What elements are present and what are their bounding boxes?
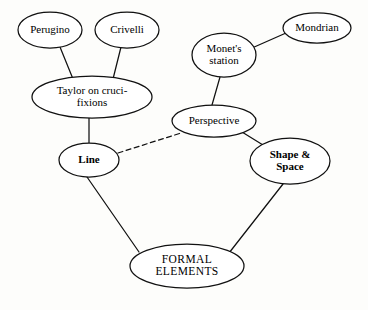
node-taylor-on-crucifixions[interactable]: Taylor on cruci-fixions: [32, 76, 152, 118]
node-label-line: Space: [276, 160, 304, 172]
node-label-line: Line: [78, 153, 100, 165]
node-label-line: Mondrian: [295, 21, 339, 33]
edge-monet-perspective: [212, 77, 220, 105]
node-label-line: Crivelli: [110, 23, 144, 35]
node-label-formal-elements: FORMALELEMENTS: [155, 253, 218, 277]
edge-monet-mondrian: [252, 33, 286, 48]
node-label-perspective: Perspective: [189, 114, 240, 126]
node-perugino[interactable]: Perugino: [18, 12, 82, 48]
edge-crivelli-taylor: [113, 47, 121, 79]
node-label-line: Shape &: [270, 148, 311, 160]
node-shape-and-space[interactable]: Shape &Space: [250, 138, 330, 184]
node-label-line: station: [209, 54, 239, 66]
node-label-perugino: Perugino: [30, 23, 70, 35]
node-monets-station[interactable]: Monet'sstation: [192, 33, 256, 77]
node-line[interactable]: Line: [59, 143, 119, 177]
node-formal-elements[interactable]: FORMALELEMENTS: [130, 244, 244, 288]
concept-map-canvas: PeruginoCrivelliTaylor on cruci-fixionsL…: [0, 0, 368, 310]
nodes-group: PeruginoCrivelliTaylor on cruci-fixionsL…: [18, 12, 351, 288]
edge-line-formal: [87, 177, 139, 252]
node-label-monets-station: Monet'sstation: [207, 42, 242, 66]
node-label-line: fixions: [77, 96, 108, 108]
node-label-line: Line: [78, 153, 100, 165]
node-label-line: ELEMENTS: [155, 265, 218, 277]
node-mondrian[interactable]: Mondrian: [283, 13, 351, 43]
concept-map-diagram: PeruginoCrivelliTaylor on cruci-fixionsL…: [0, 0, 368, 310]
node-label-line: Taylor on cruci-: [57, 84, 128, 96]
node-label-line: Monet's: [207, 42, 242, 54]
edge-perugino-taylor: [60, 47, 73, 79]
node-label-line: Perspective: [189, 114, 240, 126]
node-crivelli[interactable]: Crivelli: [95, 12, 159, 48]
node-label-mondrian: Mondrian: [295, 21, 339, 33]
node-label-line: FORMAL: [162, 253, 212, 265]
node-perspective[interactable]: Perspective: [172, 105, 256, 137]
edge-perspective-shape: [242, 132, 263, 145]
node-label-line: Perugino: [30, 23, 70, 35]
edge-shape-formal: [229, 184, 283, 253]
edge-line-perspective: [118, 133, 181, 153]
node-label-crivelli: Crivelli: [110, 23, 144, 35]
